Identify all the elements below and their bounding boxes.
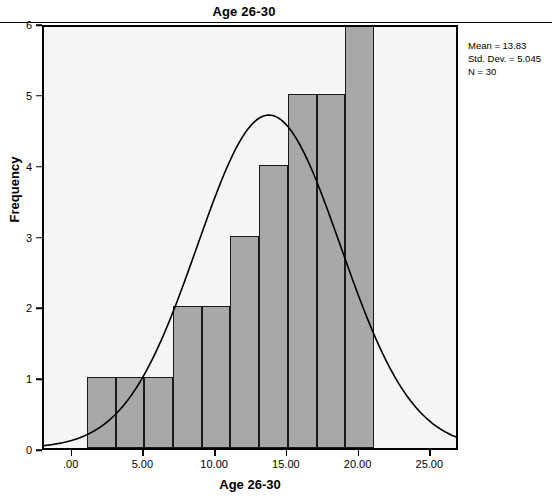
mean-stat: Mean = 13.83: [468, 40, 541, 53]
x-tick-label: 10.00: [200, 458, 228, 470]
y-tick-label: 2: [26, 302, 32, 314]
x-tick-label: 20.00: [344, 458, 372, 470]
chart-title: Age 26-30: [0, 4, 488, 19]
histogram-bar: [144, 377, 173, 448]
y-tick-label: 1: [26, 373, 32, 385]
histogram-bar: [317, 94, 346, 448]
histogram-bar: [345, 25, 374, 448]
y-tick-label: 5: [26, 90, 32, 102]
x-axis-ticks: .005.0010.0015.0020.0025.00: [42, 450, 458, 480]
x-tick-label: .00: [63, 458, 78, 470]
y-tick-label: 6: [26, 19, 32, 31]
bars-layer: [44, 27, 456, 448]
x-tick-label: 25.00: [416, 458, 444, 470]
histogram-bar: [288, 94, 317, 448]
histogram-bar: [173, 306, 202, 448]
histogram-bar: [230, 236, 259, 449]
x-tick-mark: [286, 450, 288, 456]
x-axis-label: Age 26-30: [42, 477, 458, 492]
histogram-bar: [202, 306, 231, 448]
y-axis-ticks: 0123456: [0, 25, 42, 450]
histogram-chart: Age 26-30 Frequency 0123456 .005.0010.00…: [0, 0, 552, 499]
std-dev-stat: Std. Dev. = 5.045: [468, 53, 541, 66]
title-divider: [0, 22, 552, 23]
y-tick-label: 0: [26, 444, 32, 456]
statistics-annotation: Mean = 13.83 Std. Dev. = 5.045 N = 30: [468, 40, 541, 78]
x-tick-mark: [71, 450, 73, 456]
histogram-bar: [259, 165, 288, 448]
x-tick-mark: [214, 450, 216, 456]
x-tick-mark: [142, 450, 144, 456]
x-tick-mark: [429, 450, 431, 456]
histogram-bar: [87, 377, 116, 448]
sample-size-stat: N = 30: [468, 66, 541, 79]
y-tick-label: 4: [26, 161, 32, 173]
x-tick-label: 15.00: [272, 458, 300, 470]
x-tick-label: 5.00: [132, 458, 153, 470]
y-tick-label: 3: [26, 232, 32, 244]
x-tick-mark: [358, 450, 360, 456]
histogram-bar: [116, 377, 145, 448]
plot-area: [42, 25, 458, 450]
